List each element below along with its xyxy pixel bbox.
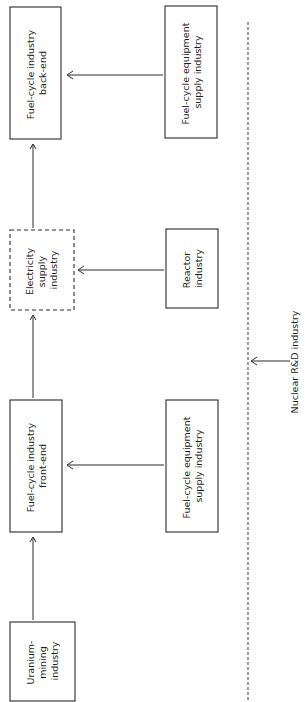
node-label-line: Reactor (181, 252, 192, 289)
node-fuel-cycle-front-end: Fuel-cycle industry front-end (10, 400, 62, 532)
node-equipment-supply-back-end: Fuel-cycle equipment supply industry (165, 6, 217, 138)
edge-rd-to-boundary (251, 357, 290, 365)
node-label-line: supply industry (192, 35, 203, 109)
node-equipment-supply-front-end: Fuel-cycle equipment supply industry (166, 400, 218, 532)
edge-electricity-to-back-end (30, 144, 36, 228)
node-label-line: supply industry (193, 429, 204, 503)
svg-text:Uranium- mining in: Uranium- mining industry (25, 637, 60, 684)
rd-label: Nuclear R&D industry (289, 310, 300, 413)
node-fuel-cycle-back-end: Fuel-cycle industry back-end (10, 7, 61, 139)
edge-front-end-to-electricity (30, 315, 36, 398)
node-label-line: Fuel-cycle equipment (180, 22, 191, 124)
edge-uranium-to-front-end (30, 537, 36, 620)
node-uranium-mining: Uranium- mining industry (10, 622, 75, 701)
node-label-line: Fuel-cycle industry (25, 422, 36, 512)
edge-equipment-to-front-end (67, 461, 164, 469)
node-label-line: back-end (37, 51, 48, 95)
node-label-line: Electricity (24, 248, 35, 296)
edge-equipment-to-back-end (67, 71, 163, 79)
node-reactor-industry: Reactor industry (166, 229, 218, 308)
node-label-line: Uranium- (25, 640, 36, 684)
node-label-line: mining (37, 646, 48, 679)
node-label-line: industry (48, 250, 59, 289)
svg-text:Reactor industry: Reactor industry (181, 249, 204, 289)
node-label-line: Fuel-cycle equipment (181, 416, 192, 518)
node-label-line: industry (193, 249, 204, 288)
node-label-line: supply (36, 255, 47, 287)
node-electricity-supply: Electricity supply industry (10, 230, 74, 310)
node-label-line: industry (49, 641, 60, 680)
nuclear-industry-diagram: Fuel-cycle industry back-end Electricity… (0, 0, 305, 702)
edge-reactor-to-electricity (78, 266, 164, 274)
node-label-line: front-end (37, 444, 48, 488)
node-label-line: Fuel-cycle industry (25, 29, 36, 119)
